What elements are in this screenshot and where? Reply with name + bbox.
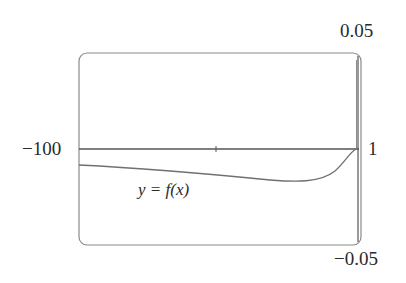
curve-label: y = f(x): [138, 180, 189, 200]
y-max-label: 0.05: [340, 20, 373, 42]
y-min-label: −0.05: [334, 248, 378, 270]
x-min-label: −100: [22, 138, 61, 160]
function-curve: [79, 149, 356, 181]
x-max-label: 1: [368, 138, 378, 160]
